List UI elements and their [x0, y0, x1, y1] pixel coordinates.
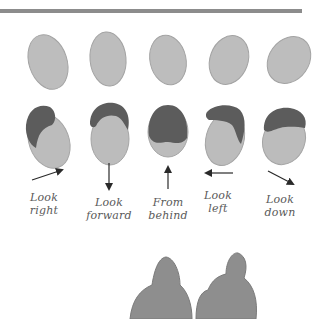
arrow-down-right-icon — [268, 171, 293, 184]
label-from-behind: From behind — [147, 196, 189, 222]
label-look-right: Look right — [26, 191, 62, 217]
head-look-forward — [90, 103, 129, 165]
head-from-behind — [148, 105, 188, 157]
oval-head-4 — [203, 30, 256, 90]
head-look-right — [21, 106, 78, 174]
oval-heads-row — [21, 28, 312, 94]
label-look-left: Look left — [202, 189, 234, 215]
head-look-left — [200, 105, 251, 170]
head-look-down — [256, 108, 312, 171]
oval-head-3 — [145, 32, 191, 88]
oval-head-2 — [88, 31, 129, 88]
oval-head-5 — [258, 28, 312, 92]
hooded-figures — [130, 253, 257, 319]
label-look-down: Look down — [262, 193, 298, 219]
arrow-up-right-icon — [32, 170, 62, 180]
head-shapes-illustration — [0, 0, 312, 319]
label-look-forward: Look forward — [84, 196, 134, 222]
oval-head-1 — [21, 29, 74, 94]
